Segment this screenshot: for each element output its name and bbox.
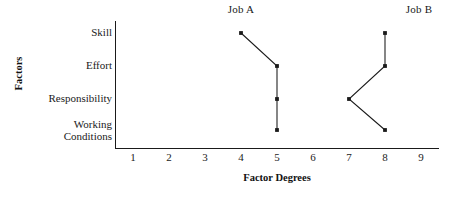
category-label-working-conditions: Working Conditions xyxy=(0,119,112,142)
job-b-column-header: Job B xyxy=(391,3,447,15)
series-group xyxy=(239,31,387,132)
data-point-job-b-effort xyxy=(383,64,387,68)
job-a-column-header: Job A xyxy=(213,3,269,15)
chart-page: Job A Job B Factors Skill Effort Respons… xyxy=(0,0,454,203)
x-tick-label-6: 6 xyxy=(301,151,325,163)
x-tick-label-3: 3 xyxy=(193,151,217,163)
x-tick-label-1: 1 xyxy=(121,151,145,163)
data-point-job-a-working-conditions xyxy=(275,128,279,132)
x-tick-label-9: 9 xyxy=(409,151,433,163)
category-label-responsibility: Responsibility xyxy=(0,93,112,105)
data-point-job-a-responsibility xyxy=(275,97,279,101)
data-point-job-b-responsibility xyxy=(347,97,351,101)
category-label-effort: Effort xyxy=(0,60,112,72)
series-line-job-b xyxy=(349,33,385,130)
x-tick-label-8: 8 xyxy=(373,151,397,163)
x-tick-label-4: 4 xyxy=(229,151,253,163)
x-axis-title: Factor Degrees xyxy=(115,172,439,183)
category-label-skill: Skill xyxy=(0,27,112,39)
x-tick-label-5: 5 xyxy=(265,151,289,163)
data-point-job-a-skill xyxy=(239,31,243,35)
x-axis-line xyxy=(115,148,439,149)
series-line-job-a xyxy=(241,33,277,130)
x-tick-label-2: 2 xyxy=(157,151,181,163)
y-axis-line xyxy=(115,21,116,149)
data-point-job-b-skill xyxy=(383,31,387,35)
data-point-job-b-working-conditions xyxy=(383,128,387,132)
data-point-job-a-effort xyxy=(275,64,279,68)
x-tick-label-7: 7 xyxy=(337,151,361,163)
